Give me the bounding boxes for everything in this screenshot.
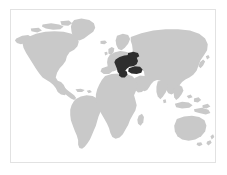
world-locator-map-figure	[0, 0, 227, 175]
world-map-canvas	[11, 10, 215, 162]
map-frame-border	[10, 9, 216, 163]
